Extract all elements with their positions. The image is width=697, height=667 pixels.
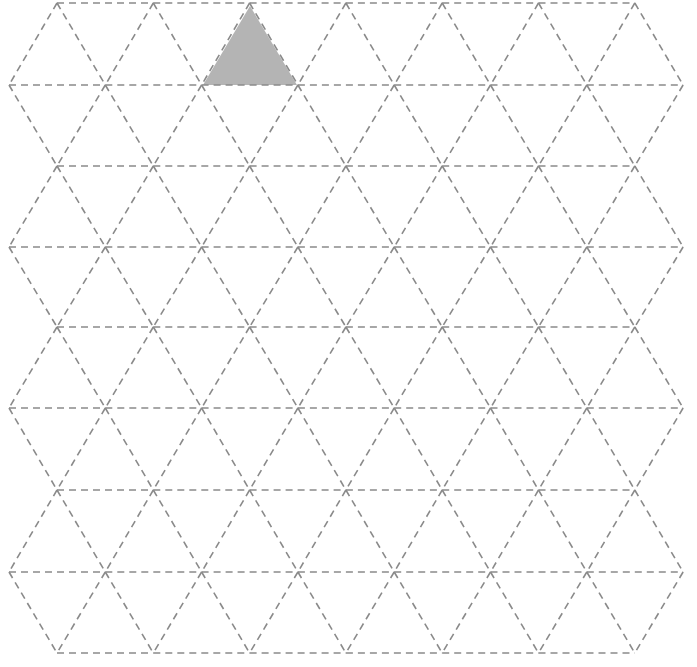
grid-line xyxy=(635,327,683,408)
grid-line xyxy=(9,3,57,85)
grid-line xyxy=(394,166,442,247)
grid-line xyxy=(635,166,683,247)
grid-line xyxy=(491,408,539,490)
grid-line xyxy=(153,3,201,85)
grid-line xyxy=(539,166,587,247)
grid-line xyxy=(587,408,635,490)
grid-line xyxy=(491,247,539,327)
grid-line xyxy=(587,247,635,327)
grid-line xyxy=(635,3,683,85)
grid-line xyxy=(57,490,105,572)
grid-line xyxy=(9,408,57,490)
grid-line xyxy=(539,247,587,327)
grid-line xyxy=(635,247,683,327)
grid-line xyxy=(539,408,587,490)
grid-line xyxy=(298,85,346,166)
grid-line xyxy=(635,572,683,653)
grid-line xyxy=(346,408,394,490)
triangle-grid-diagram xyxy=(0,0,697,667)
grid-line xyxy=(105,327,153,408)
grid-line xyxy=(442,408,490,490)
grid-line xyxy=(105,247,153,327)
grid-line xyxy=(202,247,250,327)
grid-line xyxy=(153,247,201,327)
grid-line xyxy=(346,490,394,572)
grid-line xyxy=(346,572,394,653)
grid-line xyxy=(202,490,250,572)
grid-line xyxy=(9,166,57,247)
grid-line xyxy=(9,85,57,166)
grid-line xyxy=(105,572,153,653)
grid-line xyxy=(105,490,153,572)
grid-line xyxy=(57,247,105,327)
grid-line xyxy=(491,166,539,247)
grid-line xyxy=(153,327,201,408)
grid-line xyxy=(346,166,394,247)
grid-line xyxy=(153,85,201,166)
grid-line xyxy=(491,85,539,166)
grid-line xyxy=(202,85,250,166)
grid-line xyxy=(539,3,587,85)
grid-line xyxy=(635,85,683,166)
grid-line xyxy=(635,408,683,490)
grid-line xyxy=(394,408,442,490)
grid-line xyxy=(298,166,346,247)
grid-line xyxy=(587,3,635,85)
grid-line xyxy=(202,408,250,490)
grid-line xyxy=(491,3,539,85)
grid-line xyxy=(202,572,250,653)
grid-line xyxy=(539,85,587,166)
grid-line xyxy=(635,490,683,572)
grid-line xyxy=(57,327,105,408)
grid-line xyxy=(539,327,587,408)
grid-line xyxy=(153,408,201,490)
grid-line xyxy=(202,166,250,247)
grid-line xyxy=(202,327,250,408)
grid-line xyxy=(539,490,587,572)
grid-line xyxy=(394,490,442,572)
grid-line xyxy=(442,572,490,653)
grid-lines xyxy=(9,3,683,653)
grid-line xyxy=(346,247,394,327)
grid-line xyxy=(394,3,442,85)
grid-line xyxy=(9,490,57,572)
grid-line xyxy=(153,490,201,572)
grid-line xyxy=(153,166,201,247)
grid-line xyxy=(105,166,153,247)
grid-line xyxy=(153,572,201,653)
grid-line xyxy=(394,85,442,166)
grid-line xyxy=(9,247,57,327)
grid-line xyxy=(57,166,105,247)
grid-line xyxy=(587,327,635,408)
grid-line xyxy=(9,327,57,408)
grid-line xyxy=(587,166,635,247)
grid-line xyxy=(491,490,539,572)
grid-line xyxy=(57,85,105,166)
grid-line xyxy=(442,247,490,327)
grid-line xyxy=(587,85,635,166)
grid-line xyxy=(250,166,298,247)
grid-line xyxy=(442,327,490,408)
grid-line xyxy=(250,490,298,572)
grid-line xyxy=(394,247,442,327)
grid-line xyxy=(250,572,298,653)
grid-line xyxy=(346,85,394,166)
grid-line xyxy=(491,327,539,408)
grid-line xyxy=(298,3,346,85)
grid-line xyxy=(250,327,298,408)
grid-line xyxy=(298,408,346,490)
grid-line xyxy=(539,572,587,653)
grid-line xyxy=(442,166,490,247)
grid-line xyxy=(57,408,105,490)
grid-line xyxy=(105,3,153,85)
grid-line xyxy=(587,572,635,653)
grid-line xyxy=(298,490,346,572)
grid-line xyxy=(394,572,442,653)
grid-line xyxy=(587,490,635,572)
grid-line xyxy=(346,3,394,85)
shaded-triangle xyxy=(203,6,297,85)
grid-line xyxy=(394,327,442,408)
grid-line xyxy=(250,408,298,490)
grid-line xyxy=(57,3,105,85)
shaded-triangle-fill xyxy=(203,6,297,85)
